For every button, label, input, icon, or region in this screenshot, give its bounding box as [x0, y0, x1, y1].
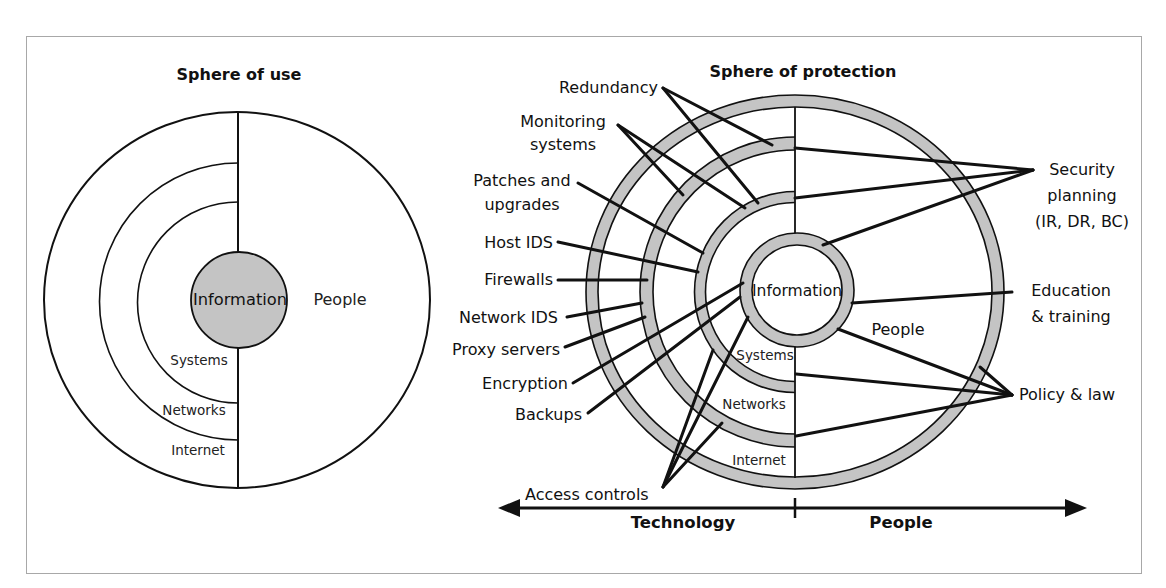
axis-people-label: People [869, 513, 932, 532]
arrow-right-icon [1065, 499, 1087, 517]
axis-technology-label: Technology [631, 513, 736, 532]
control-backups: Backups [515, 405, 582, 424]
control-security-planning-line2: planning [1047, 186, 1116, 205]
control-encryption: Encryption [482, 374, 568, 393]
protection-networks-label: Networks [722, 396, 785, 412]
people-label: People [313, 290, 366, 309]
control-redundancy: Redundancy [559, 78, 658, 97]
arrow-left-icon [498, 499, 520, 517]
control-patches-line1: Patches and [473, 171, 570, 190]
control-network-ids: Network IDS [459, 308, 558, 327]
spheres-diagram: Sphere of use Information People Systems… [0, 0, 1166, 588]
control-access-controls: Access controls [525, 485, 649, 504]
control-education-line1: Education [1031, 281, 1111, 300]
internet-label: Internet [171, 442, 225, 458]
control-host-ids: Host IDS [484, 233, 553, 252]
protection-systems-label: Systems [736, 347, 793, 363]
control-patches-line2: upgrades [484, 195, 559, 214]
control-proxy-servers: Proxy servers [452, 340, 560, 359]
control-monitoring-systems-line2: systems [530, 135, 596, 154]
control-monitoring-systems-line1: Monitoring [520, 112, 606, 131]
sphere-of-use: Sphere of use Information People Systems… [44, 65, 430, 488]
protection-information-label: Information [752, 281, 842, 300]
control-policy-law: Policy & law [1019, 385, 1115, 404]
sphere-of-protection: Sphere of protection Information People … [452, 62, 1129, 504]
protection-internet-label: Internet [732, 452, 786, 468]
information-label: Information [193, 290, 287, 309]
control-security-planning-line3: (IR, DR, BC) [1035, 212, 1129, 231]
sphere-of-protection-title: Sphere of protection [710, 62, 897, 81]
networks-label: Networks [162, 402, 225, 418]
control-firewalls: Firewalls [484, 270, 553, 289]
protection-people-label: People [871, 320, 924, 339]
systems-label: Systems [170, 352, 227, 368]
control-security-planning-line1: Security [1049, 160, 1115, 179]
sphere-of-use-title: Sphere of use [177, 65, 302, 84]
control-education-line2: & training [1031, 307, 1111, 326]
